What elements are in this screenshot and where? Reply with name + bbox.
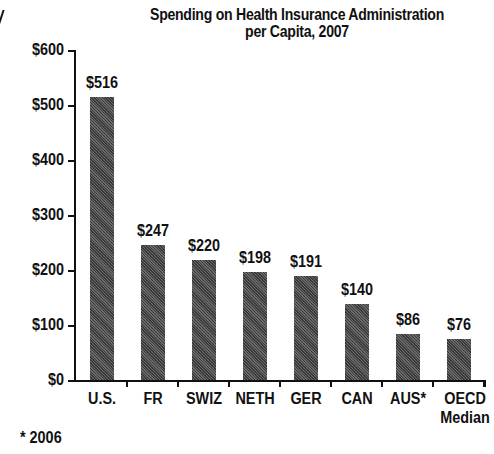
- bar: [141, 245, 165, 380]
- bar: [243, 272, 267, 380]
- bar-value-label: $247: [126, 222, 180, 240]
- x-tick: [126, 380, 128, 387]
- y-tick: [68, 380, 75, 382]
- footnote: * 2006: [20, 429, 62, 447]
- y-tick: [68, 50, 75, 52]
- bar-value-label: $140: [330, 281, 384, 299]
- y-tick-label: $200: [6, 261, 64, 279]
- bar: [192, 260, 216, 380]
- bar-value-label: $516: [75, 74, 129, 92]
- x-tick: [177, 380, 179, 387]
- category-label-line: Median: [438, 408, 492, 427]
- bar-value-label: $86: [381, 311, 435, 329]
- category-label-line: GER: [279, 389, 333, 408]
- category-label-line: AUS*: [381, 389, 435, 408]
- y-tick: [68, 160, 75, 162]
- chart-title-line-1: Spending on Health Insurance Administrat…: [124, 6, 471, 23]
- bar: [345, 304, 369, 380]
- bar: [90, 97, 114, 380]
- bar-value-label: $198: [228, 249, 282, 267]
- x-tick: [330, 380, 332, 387]
- category-label-line: SWIZ: [177, 389, 231, 408]
- y-tick-label: $0: [6, 371, 64, 389]
- category-label: AUS*: [381, 389, 435, 408]
- category-label: U.S.: [75, 389, 129, 408]
- category-label-line: CAN: [330, 389, 384, 408]
- category-label-line: FR: [126, 389, 180, 408]
- x-tick: [381, 380, 383, 387]
- x-tick: [279, 380, 281, 387]
- category-label: FR: [126, 389, 180, 408]
- bar-value-label: $76: [432, 316, 486, 334]
- chart-title-line-2: per Capita, 2007: [124, 23, 471, 40]
- category-label: SWIZ: [177, 389, 231, 408]
- category-label-line: NETH: [228, 389, 282, 408]
- y-tick-label: $600: [6, 41, 64, 59]
- bar: [447, 339, 471, 380]
- category-label-line: OECD: [438, 389, 492, 408]
- cropped-mark: [0, 10, 9, 26]
- category-label: OECDMedian: [438, 389, 492, 427]
- y-tick: [68, 270, 75, 272]
- x-tick: [228, 380, 230, 387]
- category-label: GER: [279, 389, 333, 408]
- bar-value-label: $220: [177, 237, 231, 255]
- y-tick: [68, 105, 75, 107]
- bar: [294, 276, 318, 380]
- bar-value-label: $191: [279, 253, 333, 271]
- y-tick-label: $500: [6, 96, 64, 114]
- bar: [396, 334, 420, 380]
- y-tick-label: $400: [6, 151, 64, 169]
- x-tick: [484, 380, 486, 387]
- chart-title: Spending on Health Insurance Administrat…: [124, 6, 471, 40]
- category-label-line: U.S.: [75, 389, 129, 408]
- y-tick: [68, 325, 75, 327]
- category-label: CAN: [330, 389, 384, 408]
- y-tick-label: $100: [6, 316, 64, 334]
- y-tick-label: $300: [6, 206, 64, 224]
- x-tick: [432, 380, 434, 387]
- y-tick: [68, 215, 75, 217]
- category-label: NETH: [228, 389, 282, 408]
